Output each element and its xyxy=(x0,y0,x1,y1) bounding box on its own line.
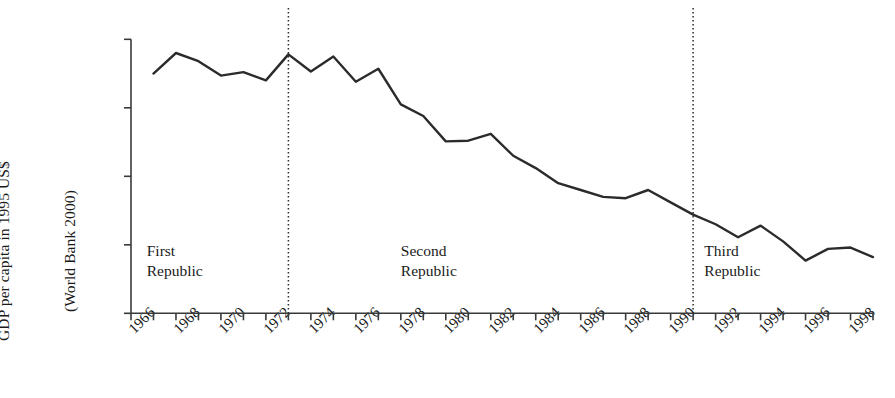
gdp-per-capita-line-chart: GDP per capita in 1995 US$ (World Bank 2… xyxy=(0,0,895,398)
annotation-third-republic: ThirdRepublic xyxy=(704,241,760,281)
annotation-second-republic-line-1: Second xyxy=(401,241,457,261)
annotation-first-republic-line-2: Republic xyxy=(147,261,203,281)
annotation-first-republic-line-1: First xyxy=(147,241,203,261)
annotation-first-republic: FirstRepublic xyxy=(147,241,203,281)
annotation-third-republic-line-2: Republic xyxy=(704,261,760,281)
annotation-second-republic-line-2: Republic xyxy=(401,261,457,281)
series-line-gdp-per-capita xyxy=(153,53,873,261)
data-series-group xyxy=(153,53,873,261)
chart-axes xyxy=(124,39,873,320)
republic-divider-lines xyxy=(288,8,693,313)
annotation-second-republic: SecondRepublic xyxy=(401,241,457,281)
chart-canvas xyxy=(0,0,895,398)
annotation-third-republic-line-1: Third xyxy=(704,241,760,261)
